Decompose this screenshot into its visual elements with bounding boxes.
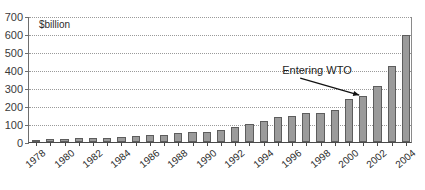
x-tick-mark [79, 142, 80, 146]
x-tick-mark [207, 142, 208, 146]
x-tick-mark [392, 142, 393, 146]
bar [245, 124, 253, 142]
x-tick-mark [178, 142, 179, 146]
x-tick-label: 2004 [394, 148, 417, 170]
y-tick-label: 200 [5, 102, 23, 113]
x-tick-label: 1998 [309, 148, 332, 170]
x-tick-mark [193, 142, 194, 146]
bar [345, 99, 353, 142]
y-tick-label: 400 [5, 66, 23, 77]
x-tick-mark [164, 142, 165, 146]
bar [203, 132, 211, 142]
bar [388, 66, 396, 143]
bar [160, 135, 168, 142]
bar [359, 96, 367, 142]
x-tick-label: 1994 [252, 148, 275, 170]
x-tick-mark [221, 142, 222, 146]
x-tick-mark [93, 142, 94, 146]
y-tick-label: 100 [5, 120, 23, 131]
bar [316, 113, 324, 142]
y-tick-label: 0 [17, 138, 23, 149]
bar-chart-figure: $billion 0100200300400500600700 19781980… [0, 0, 425, 190]
bar [331, 110, 339, 142]
x-tick-mark [36, 142, 37, 146]
bar [402, 35, 410, 142]
x-tick-label: 1982 [81, 148, 104, 170]
x-tick-mark [65, 142, 66, 146]
x-tick-mark [292, 142, 293, 146]
bar [260, 121, 268, 142]
bars-layer [29, 17, 411, 142]
y-tick-label: 700 [5, 12, 23, 23]
x-tick-label: 1978 [24, 148, 47, 170]
x-tick-label: 1988 [166, 148, 189, 170]
bar [302, 113, 310, 142]
x-tick-mark [107, 142, 108, 146]
x-tick-mark [235, 142, 236, 146]
x-tick-mark [136, 142, 137, 146]
x-tick-label: 1990 [195, 148, 218, 170]
bar [373, 86, 381, 142]
x-tick-mark [306, 142, 307, 146]
x-tick-mark [121, 142, 122, 146]
x-tick-label: 1984 [109, 148, 132, 170]
bar [217, 130, 225, 142]
bar [188, 132, 196, 142]
bar [174, 133, 182, 142]
x-tick-label: 1980 [53, 148, 76, 170]
bar [288, 116, 296, 142]
x-tick-label: 1992 [223, 148, 246, 170]
annotation-label: Entering WTO [282, 65, 352, 76]
bar [231, 127, 239, 142]
x-tick-mark [264, 142, 265, 146]
bar [274, 117, 282, 142]
y-tick-label: 600 [5, 30, 23, 41]
x-tick-label: 1996 [280, 148, 303, 170]
x-tick-mark [377, 142, 378, 146]
x-tick-mark [321, 142, 322, 146]
y-tick-label: 300 [5, 84, 23, 95]
y-tick-label: 500 [5, 48, 23, 59]
x-tick-mark [363, 142, 364, 146]
x-tick-mark [249, 142, 250, 146]
x-tick-mark [150, 142, 151, 146]
x-tick-label: 1986 [138, 148, 161, 170]
x-tick-mark [335, 142, 336, 146]
x-tick-label: 2000 [337, 148, 360, 170]
x-tick-mark [349, 142, 350, 146]
y-tick-mark [25, 143, 29, 144]
plot-area: $billion 0100200300400500600700 19781980… [28, 17, 412, 143]
x-tick-mark [406, 142, 407, 146]
x-tick-mark [278, 142, 279, 146]
x-tick-mark [50, 142, 51, 146]
x-tick-label: 2002 [365, 148, 388, 170]
bar [146, 135, 154, 142]
